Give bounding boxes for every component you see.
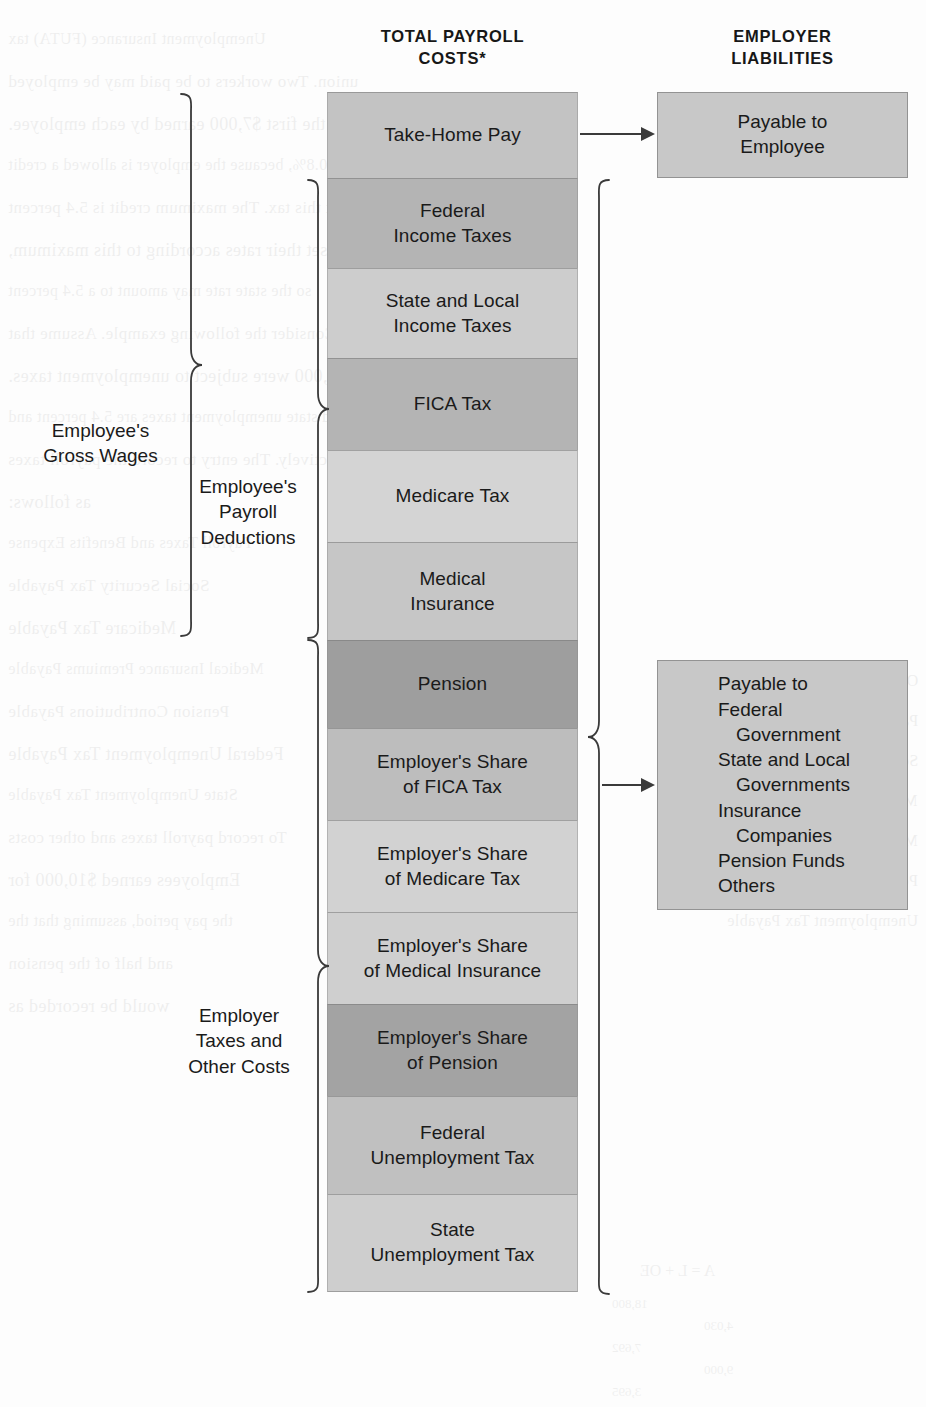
- stack-segment: Medicare Tax: [327, 450, 578, 542]
- stack-segment-label: Medicare Tax: [386, 484, 520, 509]
- payable-to-employee-line: Employee: [738, 135, 828, 160]
- stack-segment: Pension: [327, 640, 578, 728]
- payable-to-liabilities-item: Insurance: [718, 798, 907, 823]
- label-employees-gross-wages: Employee'sGross Wages: [18, 418, 183, 469]
- total-payroll-costs-header: TOTAL PAYROLLCOSTS*: [327, 26, 578, 70]
- stack-segment: Employer's Shareof Medical Insurance: [327, 912, 578, 1004]
- brace-employer-taxes-other-costs: [305, 638, 331, 1294]
- diagram-page: Unemployment Insurance (FUTA) taxunion. …: [0, 0, 926, 1407]
- stack-segment-label: Employer's Shareof Pension: [367, 1026, 538, 1075]
- stack-segment-label: Take-Home Pay: [374, 123, 530, 148]
- bleed-through-line: the first $7,000 earned by each employee…: [8, 114, 325, 135]
- bleed-through-line: Pension Contributions Payable: [8, 702, 229, 722]
- bleed-through-number: 18,800: [612, 1296, 648, 1312]
- bleed-through-line: the pay period, assuming that the: [8, 912, 233, 930]
- employer-liabilities-header: EMPLOYERLIABILITIES: [657, 26, 908, 70]
- payable-to-liabilities-item: State and Local: [718, 747, 907, 772]
- bleed-through-line: and half of the pension: [8, 954, 173, 974]
- payable-to-liabilities-item: Companies: [718, 823, 907, 848]
- arrow-head: [641, 127, 655, 141]
- bleed-through-line: so the state rate may amount to a 5.4 pe…: [8, 282, 311, 300]
- stack-segment: FederalUnemployment Tax: [327, 1096, 578, 1194]
- arrow-deductions-to-liabilities: [602, 777, 655, 793]
- payable-to-liabilities-item: Others: [718, 873, 907, 898]
- stack-segment-label: Employer's Shareof Medical Insurance: [354, 934, 551, 983]
- bleed-through-line: Employees earned $10,000 for: [8, 870, 240, 891]
- stack-segment-label: MedicalInsurance: [400, 567, 504, 616]
- bleed-through-number: 4,030: [704, 1318, 733, 1334]
- bleed-through-line: would be recorded as: [8, 996, 169, 1017]
- stack-segment-label: Pension: [408, 672, 497, 697]
- stack-segment-label: FederalIncome Taxes: [383, 199, 521, 248]
- arrow-take-home-to-employee: [580, 126, 655, 142]
- arrow-head: [641, 778, 655, 792]
- stack-segment-label: State and LocalIncome Taxes: [376, 289, 530, 338]
- stack-segment: Employer's Shareof FICA Tax: [327, 728, 578, 820]
- stack-segment: FICA Tax: [327, 358, 578, 450]
- payable-to-employee-line: Payable to: [738, 110, 828, 135]
- bleed-through-line: Medicare Tax Payable: [8, 618, 176, 639]
- bleed-through-line: To record payroll taxes and other costs: [8, 828, 287, 848]
- bleed-through-equation: A = L + OE: [640, 1262, 715, 1280]
- bleed-through-number: 3,695: [612, 1384, 641, 1400]
- stack-segment-label: StateUnemployment Tax: [361, 1218, 545, 1267]
- arrow-shaft: [580, 133, 643, 135]
- stack-segment: Employer's Shareof Medicare Tax: [327, 820, 578, 912]
- brace-liability-group: [586, 178, 612, 1296]
- bleed-through-line: union. Two workers to be paid may be emp…: [8, 72, 358, 92]
- label-employer-taxes-other-costs: EmployerTaxes andOther Costs: [170, 1003, 308, 1079]
- bleed-through-line: 0.8%, because the employer is allowed a …: [8, 156, 327, 174]
- stack-segment-label: Employer's Shareof FICA Tax: [367, 750, 538, 799]
- stack-segment: Take-Home Pay: [327, 92, 578, 178]
- box-payable-to-liabilities: Payable toFederalGovernmentState and Loc…: [657, 660, 908, 910]
- bleed-through-line: as follows:: [8, 492, 91, 513]
- payable-to-liabilities-item: Federal: [718, 697, 907, 722]
- box-payable-to-employee: Payable toEmployee: [657, 92, 908, 178]
- payable-to-liabilities-item: Governments: [718, 772, 907, 797]
- stack-segment-label: FederalUnemployment Tax: [361, 1121, 545, 1170]
- brace-employees-gross-wages: [178, 92, 204, 638]
- bleed-through-number: 7,692: [612, 1340, 641, 1356]
- stack-segment: Employer's Shareof Pension: [327, 1004, 578, 1096]
- bleed-through-line: State Unemployment Tax Payable: [8, 786, 238, 804]
- brace-employees-payroll-deductions: [305, 178, 331, 640]
- label-employees-payroll-deductions: Employee'sPayrollDeductions: [188, 474, 308, 550]
- bleed-through-line: Federal Unemployment Tax Payable: [8, 744, 284, 765]
- payroll-cost-stack: Take-Home PayFederalIncome TaxesState an…: [327, 92, 578, 1292]
- stack-segment: FederalIncome Taxes: [327, 178, 578, 268]
- payable-to-liabilities-list: Payable toFederalGovernmentState and Loc…: [658, 671, 907, 898]
- bleed-through-line: Consider the following example. Assume t…: [8, 324, 336, 344]
- stack-segment: MedicalInsurance: [327, 542, 578, 640]
- bleed-through-line: Unemployment Tax Payable: [727, 912, 918, 930]
- arrow-shaft: [602, 784, 643, 786]
- stack-segment-label: Employer's Shareof Medicare Tax: [367, 842, 538, 891]
- payable-to-liabilities-item: Pension Funds: [718, 848, 907, 873]
- stack-segment-label: FICA Tax: [404, 392, 502, 417]
- stack-segment: StateUnemployment Tax: [327, 1194, 578, 1292]
- payable-to-liabilities-item: Payable to: [718, 671, 907, 696]
- bleed-through-number: 9,000: [704, 1362, 733, 1378]
- bleed-through-line: Medical Insurance Premiums Payable: [8, 660, 264, 678]
- bleed-through-line: Unemployment Insurance (FUTA) tax: [8, 30, 266, 48]
- payable-to-employee-lines: Payable toEmployee: [730, 110, 836, 159]
- payable-to-liabilities-item: Government: [718, 722, 907, 747]
- stack-segment: State and LocalIncome Taxes: [327, 268, 578, 358]
